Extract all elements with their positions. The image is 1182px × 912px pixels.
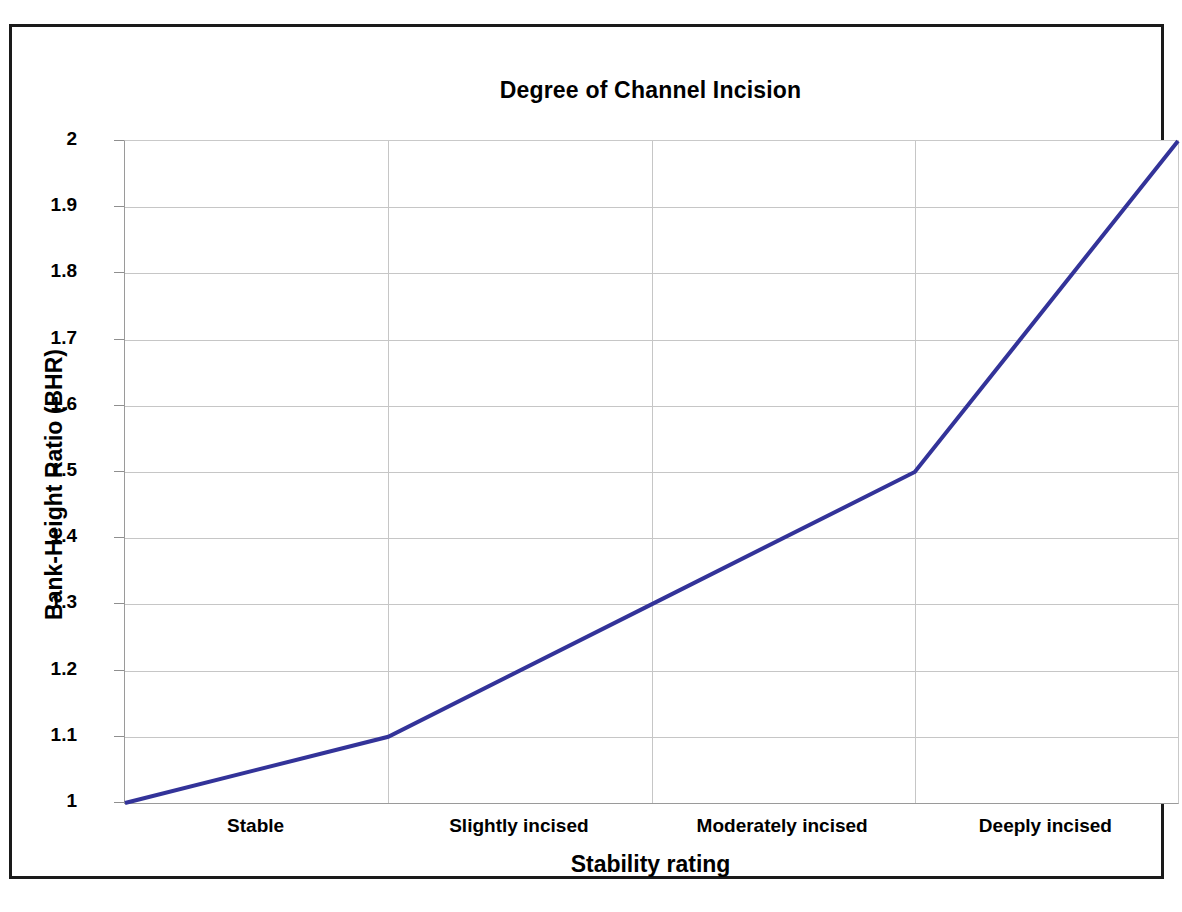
y-axis-tick-label: 1.3: [7, 592, 77, 611]
x-axis-category-label: Slightly incised: [387, 815, 650, 837]
y-axis-tick-mark: [114, 736, 124, 737]
x-axis-title: Stability rating: [124, 851, 1177, 878]
x-axis-category-label: Deeply incised: [914, 815, 1177, 837]
bhr-data-line: [125, 141, 1178, 803]
chart-title: Degree of Channel Incision: [124, 77, 1177, 104]
y-axis-tick-label: 1.6: [7, 394, 77, 413]
y-axis-tick-mark: [114, 471, 124, 472]
plot-area: [124, 140, 1179, 804]
y-axis-tick-label: 1.8: [7, 261, 77, 280]
y-axis-tick-label: 1: [7, 791, 77, 810]
y-axis-tick-mark: [114, 339, 124, 340]
y-axis-tick-label: 1.2: [7, 659, 77, 678]
y-axis-tick-mark: [114, 802, 124, 803]
y-axis-tick-mark: [114, 140, 124, 141]
y-axis-tick-label: 1.9: [7, 195, 77, 214]
y-axis-tick-mark: [114, 206, 124, 207]
y-axis-tick-label: 1.4: [7, 526, 77, 545]
y-axis-tick-label: 1.1: [7, 725, 77, 744]
data-line-svg: [125, 141, 1178, 803]
y-axis-tick-label: 1.5: [7, 460, 77, 479]
y-axis-tick-mark: [114, 405, 124, 406]
y-axis-tick-mark: [114, 603, 124, 604]
y-axis-tick-label: 2: [7, 129, 77, 148]
y-axis-tick-mark: [114, 670, 124, 671]
y-axis-tick-mark: [114, 272, 124, 273]
x-axis-category-label: Moderately incised: [651, 815, 914, 837]
chart-page: Degree of Channel Incision Bank-Height R…: [0, 0, 1182, 912]
y-axis-tick-mark: [114, 537, 124, 538]
x-axis-category-label: Stable: [124, 815, 387, 837]
chart-outer-frame: Degree of Channel Incision Bank-Height R…: [9, 24, 1164, 879]
plot-inner: [125, 141, 1178, 803]
y-axis-tick-label: 1.7: [7, 328, 77, 347]
